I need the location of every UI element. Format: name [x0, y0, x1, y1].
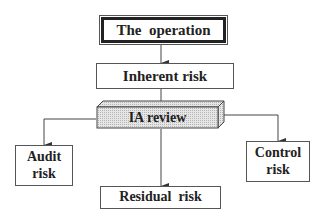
node-label: The operation — [116, 21, 210, 39]
node-audit-risk: Audit risk — [15, 145, 73, 186]
node-label-line-1: Control — [255, 145, 301, 162]
node-control-risk: Control risk — [246, 141, 310, 182]
node-residual-risk: Residual risk — [100, 186, 221, 209]
edge-ia-control — [224, 115, 278, 141]
node-inherent-risk: Inherent risk — [96, 63, 234, 89]
node-the-operation: The operation — [101, 17, 226, 43]
edge-ia-audit — [44, 119, 96, 145]
node-ia-review: IA review — [96, 100, 226, 130]
node-label-line-2: risk — [32, 166, 55, 183]
node-label: Residual risk — [119, 189, 201, 206]
node-label-line-2: risk — [266, 162, 289, 179]
node-label: Inherent risk — [123, 67, 207, 85]
node-label-line-1: Audit — [27, 149, 61, 166]
node-label: IA review — [97, 107, 218, 128]
